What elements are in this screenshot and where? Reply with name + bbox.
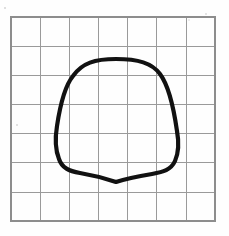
paper-speck-3	[188, 19, 190, 21]
grid-figure-svg: Hand-drawn closed curve on square grid A…	[0, 0, 229, 236]
paper-speck-0	[4, 7, 6, 9]
figure-canvas: Hand-drawn closed curve on square grid A…	[0, 0, 229, 236]
canvas-background	[0, 0, 229, 236]
paper-speck-2	[16, 124, 18, 126]
paper-speck-1	[205, 13, 207, 15]
